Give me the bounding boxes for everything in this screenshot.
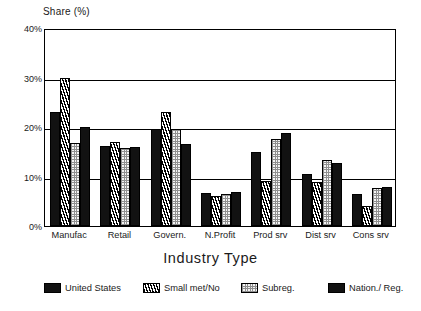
- x-axis-tick: Dist srv: [305, 230, 336, 240]
- bar: [80, 127, 90, 226]
- bar: [382, 187, 392, 226]
- legend-label: Subreg.: [262, 283, 295, 293]
- x-axis-tick-labels: ManufacRetailGovern.N.ProfitProd srvDist…: [44, 230, 396, 244]
- bar: [281, 133, 291, 226]
- bar: [120, 148, 130, 226]
- legend-label: Small met/No: [164, 283, 220, 293]
- bar: [251, 152, 261, 226]
- legend-label: United States: [65, 283, 121, 293]
- legend-swatch-icon: [143, 283, 160, 293]
- bar: [271, 139, 281, 226]
- bar: [181, 144, 191, 226]
- x-axis-tick: Govern.: [153, 230, 186, 240]
- y-axis-tick: 20%: [24, 123, 42, 133]
- bar: [151, 129, 161, 226]
- legend-swatch-icon: [328, 283, 345, 293]
- y-axis-tick: 0%: [29, 222, 42, 232]
- bar: [362, 206, 372, 226]
- x-axis-tick: Manufac: [52, 230, 87, 240]
- bar: [352, 194, 362, 226]
- bar-group: [45, 30, 95, 226]
- bar: [70, 143, 80, 226]
- bar: [322, 160, 332, 226]
- x-axis-tick: Prod srv: [253, 230, 287, 240]
- bar-group: [196, 30, 246, 226]
- bar: [110, 142, 120, 226]
- bar: [211, 196, 221, 226]
- legend-swatch-icon: [44, 283, 61, 293]
- y-axis-tick: 30%: [24, 74, 42, 84]
- bar: [231, 192, 241, 226]
- y-axis-tick: 10%: [24, 173, 42, 183]
- x-axis-tick: N.Profit: [205, 230, 236, 240]
- bars-layer: [45, 30, 395, 226]
- bar: [171, 129, 181, 227]
- legend-item[interactable]: Nation./ Reg.: [328, 283, 403, 293]
- bar: [221, 194, 231, 226]
- bar: [332, 163, 342, 226]
- bar: [60, 78, 70, 227]
- bar: [302, 174, 312, 226]
- bar-group: [95, 30, 145, 226]
- bar-chart: Share (%) 0%10%20%30%40% ManufacRetailGo…: [0, 0, 421, 311]
- bar: [100, 146, 110, 226]
- legend-swatch-icon: [241, 283, 258, 293]
- bar-group: [246, 30, 296, 226]
- bar: [50, 112, 60, 226]
- bar: [261, 181, 271, 226]
- bar: [372, 188, 382, 226]
- bar: [312, 182, 322, 226]
- bar: [130, 147, 140, 226]
- bar: [201, 193, 211, 226]
- y-axis-tick-labels: 0%10%20%30%40%: [0, 29, 42, 227]
- y-axis-title: Share (%): [43, 6, 90, 17]
- bar-group: [347, 30, 397, 226]
- plot-area: [44, 29, 396, 227]
- chart-legend: United StatesSmall met/NoSubreg.Nation./…: [44, 283, 410, 299]
- legend-item[interactable]: Subreg.: [241, 283, 295, 293]
- legend-label: Nation./ Reg.: [349, 283, 403, 293]
- legend-item[interactable]: United States: [44, 283, 121, 293]
- bar-group: [146, 30, 196, 226]
- x-axis-tick: Retail: [108, 230, 132, 240]
- y-axis-tick: 40%: [24, 24, 42, 34]
- legend-item[interactable]: Small met/No: [143, 283, 220, 293]
- x-axis-title: Industry Type: [0, 250, 421, 266]
- bar-group: [296, 30, 346, 226]
- x-axis-tick: Cons srv: [353, 230, 389, 240]
- bar: [161, 112, 171, 226]
